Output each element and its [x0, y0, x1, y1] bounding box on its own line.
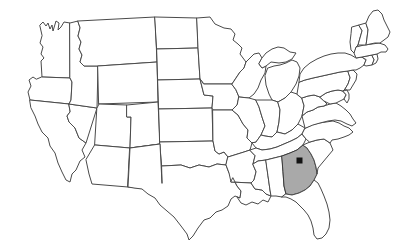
state-south-dakota[interactable]: [157, 48, 200, 80]
state-montana[interactable]: [78, 17, 157, 66]
capital-marker-square[interactable]: [297, 158, 303, 164]
markers-layer: [297, 158, 303, 164]
state-oregon[interactable]: [28, 77, 72, 104]
state-arizona[interactable]: [86, 145, 130, 187]
us-locator-map-figure: [0, 0, 405, 251]
state-utah[interactable]: [95, 104, 131, 148]
us-map-svg: [0, 0, 405, 251]
state-wyoming[interactable]: [98, 62, 158, 104]
state-colorado[interactable]: [127, 102, 160, 148]
state-kansas[interactable]: [159, 108, 213, 142]
state-washington[interactable]: [40, 21, 70, 78]
state-north-dakota[interactable]: [155, 17, 198, 49]
